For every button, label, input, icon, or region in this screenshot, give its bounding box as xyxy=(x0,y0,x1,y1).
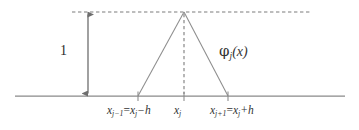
node-left-rhs-operator: −h xyxy=(137,104,151,116)
function-label-phi-j-of-x: φj(x) xyxy=(219,44,248,59)
node-right-rhs-operator: +h xyxy=(240,104,254,116)
node-right-subscript: j+1 xyxy=(215,109,226,118)
unit-height-label: 1 xyxy=(60,44,67,58)
hat-function-figure: 1 φj(x) xj−1=xj−h xj xj+1=xj+h xyxy=(0,0,359,130)
node-center-subscript: j xyxy=(179,109,181,118)
phi-argument: (x) xyxy=(232,44,248,59)
node-label-x-j-plus-1: xj+1=xj+h xyxy=(210,105,254,117)
node-label-x-j: xj xyxy=(174,105,181,117)
phi-glyph: φ xyxy=(219,42,230,60)
hat-function-left-leg xyxy=(138,12,184,96)
node-label-x-j-minus-1: xj−1=xj−h xyxy=(107,105,151,117)
node-left-subscript: j−1 xyxy=(112,109,123,118)
